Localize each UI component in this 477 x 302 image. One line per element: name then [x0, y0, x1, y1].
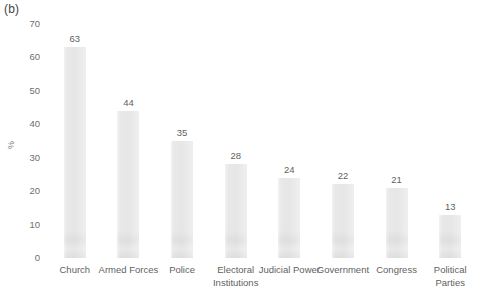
- bar-group: 28: [209, 24, 263, 258]
- y-axis-tick-label: 70: [10, 19, 40, 29]
- x-axis-tick-label: Political Parties: [418, 264, 477, 289]
- bar: [171, 141, 193, 258]
- bar-value-label: 13: [445, 202, 456, 212]
- bars-container: 6344352824222113: [48, 24, 477, 258]
- y-axis-tick-label: 40: [10, 119, 40, 129]
- y-axis-tick-label: 30: [10, 153, 40, 163]
- bar: [117, 111, 139, 258]
- bar-value-label: 44: [123, 98, 134, 108]
- bar-group: 13: [423, 24, 477, 258]
- y-axis-tick-label: 50: [10, 86, 40, 96]
- y-axis-tick-label: 0: [10, 253, 40, 263]
- x-axis-labels: ChurchArmed ForcesPoliceElectoral Instit…: [48, 264, 477, 302]
- y-axis-tick-label: 20: [10, 186, 40, 196]
- bar: [332, 184, 354, 258]
- bar-value-label: 28: [230, 151, 241, 161]
- bar: [278, 178, 300, 258]
- y-axis-tick-label: 10: [10, 220, 40, 230]
- bar-value-label: 22: [338, 171, 349, 181]
- bar-value-label: 35: [177, 128, 188, 138]
- bar-value-label: 24: [284, 165, 295, 175]
- bar: [64, 47, 86, 258]
- bar: [225, 164, 247, 258]
- bar-group: 22: [316, 24, 370, 258]
- bar-group: 24: [263, 24, 317, 258]
- bar: [386, 188, 408, 258]
- bar-group: 63: [48, 24, 102, 258]
- bar-group: 35: [155, 24, 209, 258]
- bar-value-label: 63: [70, 34, 81, 44]
- bar-chart: % 706050403020100 6344352824222113 Churc…: [0, 0, 477, 302]
- bar: [439, 215, 461, 258]
- bar-group: 21: [370, 24, 424, 258]
- y-axis-tick-label: 60: [10, 52, 40, 62]
- bar-value-label: 21: [391, 175, 402, 185]
- bar-group: 44: [102, 24, 156, 258]
